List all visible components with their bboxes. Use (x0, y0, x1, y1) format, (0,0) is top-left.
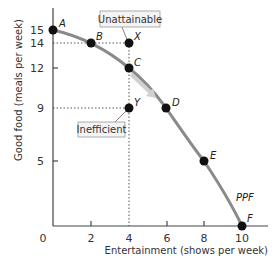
y-tick-14: 14 (30, 37, 44, 50)
point-y (125, 104, 134, 113)
y-tick-15: 15 (30, 24, 44, 37)
y-tick-9: 9 (37, 102, 44, 115)
ppf-label: PPF (236, 192, 254, 203)
label-f: F (247, 213, 253, 224)
y-axis-title: Good food (meals per week) (13, 19, 24, 161)
point-a (49, 26, 58, 35)
x-tick-8: 8 (201, 232, 208, 245)
x-axis-title: Entertainment (shows per week) (105, 245, 269, 256)
label-b: B (96, 31, 103, 42)
x-tick-4: 4 (126, 232, 133, 245)
x-tick-0: 0 (40, 232, 47, 245)
point-b (87, 39, 96, 48)
label-y: Y (134, 97, 141, 108)
inefficient-label: Inefficient (77, 124, 127, 135)
point-x (125, 39, 134, 48)
label-c: C (134, 57, 141, 68)
label-x: X (133, 31, 142, 42)
label-e: E (210, 150, 217, 161)
ppf-chart: Unattainable Inefficient A B C D E F X Y… (0, 0, 276, 264)
point-e (200, 157, 209, 166)
unattainable-label: Unattainable (98, 14, 162, 25)
chart-canvas: Unattainable Inefficient A B C D E F X Y… (0, 0, 276, 264)
x-tick-2: 2 (88, 232, 95, 245)
y-tick-12: 12 (30, 62, 44, 75)
x-tick-10: 10 (235, 232, 249, 245)
label-a: A (58, 18, 66, 29)
point-c (125, 64, 134, 73)
point-d (162, 104, 171, 113)
y-tick-5: 5 (37, 155, 44, 168)
x-tick-6: 6 (164, 232, 171, 245)
label-d: D (172, 97, 180, 108)
point-f (238, 222, 247, 231)
